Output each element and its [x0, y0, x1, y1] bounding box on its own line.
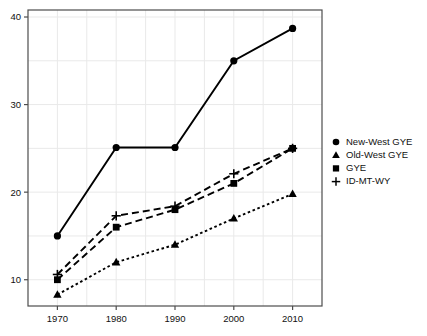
data-point-circle [171, 144, 178, 151]
x-tick-label: 2000 [223, 313, 244, 324]
data-point-square [113, 224, 120, 231]
x-tick-label: 2010 [282, 313, 303, 324]
legend-label: ID-MT-WY [346, 175, 391, 186]
data-point-square [230, 180, 237, 187]
x-tick-label: 1970 [47, 313, 68, 324]
chart-container: 10203040 19701980199020002010 New-West G… [0, 0, 427, 336]
legend-label: Old-West GYE [346, 149, 408, 160]
data-point-circle [230, 57, 237, 64]
y-tick-label: 20 [10, 187, 21, 198]
data-point-square [333, 165, 339, 171]
data-point-circle [333, 139, 340, 146]
legend-label: New-West GYE [346, 136, 412, 147]
x-tick-label: 1990 [164, 313, 185, 324]
y-tick-label: 30 [10, 99, 21, 110]
y-tick-label: 40 [10, 11, 21, 22]
y-tick-label: 10 [10, 274, 21, 285]
data-point-circle [289, 25, 296, 32]
x-tick-label: 1980 [106, 313, 127, 324]
legend-label: GYE [346, 162, 366, 173]
line-chart: 10203040 19701980199020002010 New-West G… [0, 0, 427, 336]
data-point-circle [54, 232, 61, 239]
data-point-circle [113, 144, 120, 151]
